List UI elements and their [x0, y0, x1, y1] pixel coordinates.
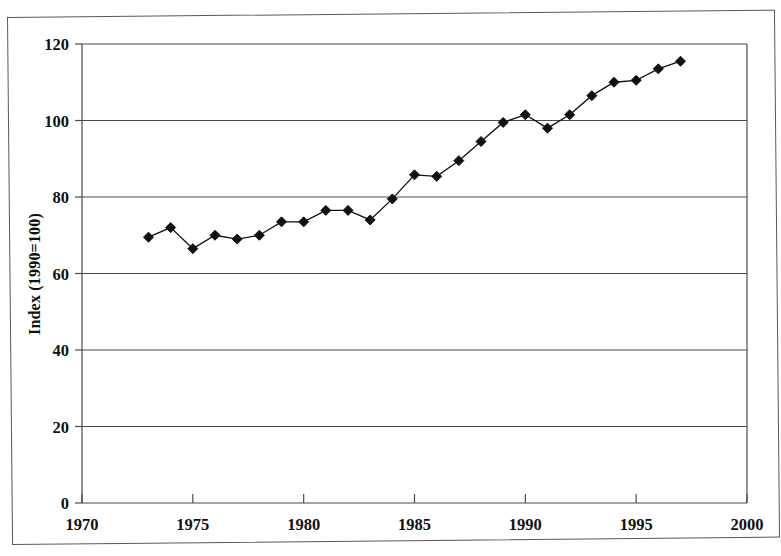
x-axis-tick-labels: 1970197519801985199019952000: [66, 515, 764, 534]
y-tick-label: 80: [53, 188, 70, 207]
x-tick-label: 1985: [398, 515, 431, 534]
x-tick-label: 1975: [176, 515, 209, 534]
y-axis-tick-labels: 020406080100120: [44, 35, 69, 513]
x-tick-label: 1980: [287, 515, 320, 534]
x-tick-label: 1970: [66, 515, 99, 534]
y-axis-ticks: [75, 44, 82, 503]
y-tick-label: 60: [53, 265, 70, 284]
y-tick-label: 40: [53, 341, 70, 360]
y-tick-label: 20: [53, 418, 70, 437]
chart-figure: 1970197519801985199019952000 02040608010…: [0, 0, 781, 556]
y-tick-label: 0: [61, 494, 69, 513]
line-chart: 1970197519801985199019952000 02040608010…: [0, 0, 781, 556]
y-tick-label: 100: [44, 112, 69, 131]
y-axis-label: Index (1990=100): [26, 213, 44, 335]
x-tick-label: 1995: [620, 515, 653, 534]
x-tick-label: 2000: [731, 515, 764, 534]
y-tick-label: 120: [44, 35, 69, 54]
x-tick-label: 1990: [509, 515, 542, 534]
